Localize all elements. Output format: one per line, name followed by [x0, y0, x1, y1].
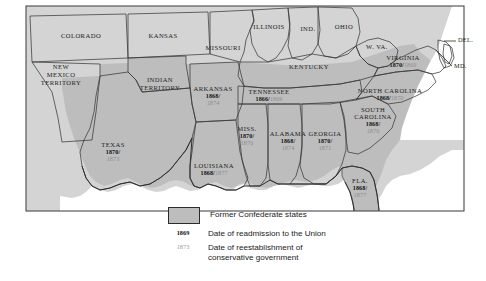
legend-row-conservative: 1873 Date of reestablishment of conserva… — [168, 243, 408, 263]
map-legend: Former Confederate states 1869 Date of r… — [168, 207, 408, 267]
legend-label-readmission: Date of readmission to the Union — [208, 229, 326, 239]
confederate-readmission-map: COLORADO KANSAS MISSOURI ILLINOIS IND. O… — [0, 0, 486, 281]
legend-label-conservative-line2: conservative government — [208, 253, 298, 262]
legend-label-confederate: Former Confederate states — [210, 207, 307, 219]
legend-row-readmission: 1869 Date of readmission to the Union — [168, 229, 408, 239]
legend-key-readmission: 1869 — [168, 229, 198, 236]
state-label-maryland: MD. — [454, 62, 467, 69]
legend-label-conservative: Date of reestablishment of conservative … — [208, 243, 302, 263]
legend-label-conservative-line1: Date of reestablishment of — [208, 243, 302, 252]
legend-key-conservative: 1873 — [168, 243, 198, 250]
legend-swatch-confederate — [168, 207, 200, 224]
legend-row-confederate: Former Confederate states — [168, 207, 408, 224]
state-label-delaware: DEL. — [458, 36, 473, 43]
